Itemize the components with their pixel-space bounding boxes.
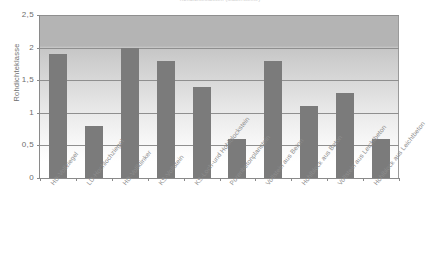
gridline [40,48,399,49]
y-tick-mark [37,80,40,81]
y-tick-mark [37,15,40,16]
x-tick-mark [184,178,185,181]
y-tick-mark [37,113,40,114]
x-tick-mark [148,178,149,181]
gridline [40,15,399,16]
y-tick-mark [37,145,40,146]
x-tick-mark [76,178,77,181]
y-tick-mark [37,48,40,49]
bar [121,48,139,178]
y-tick-label: 2 [0,43,34,52]
x-tick-mark [112,178,113,181]
x-tick-mark [255,178,256,181]
chart-title: Rohdichteklassen (Mauersteine) [110,0,330,3]
y-tick-label: 0 [0,173,34,182]
x-tick-mark [40,178,41,181]
x-tick-mark [363,178,364,181]
x-tick-mark [220,178,221,181]
bar [157,61,175,178]
y-tick-label: 0,5 [0,140,34,149]
bar [49,54,67,178]
y-tick-label: 1 [0,108,34,117]
x-tick-mark [399,178,400,181]
x-tick-mark [327,178,328,181]
gridline [40,80,399,81]
x-tick-mark [291,178,292,181]
y-tick-label: 2,5 [0,10,34,19]
y-tick-label: 1,5 [0,75,34,84]
